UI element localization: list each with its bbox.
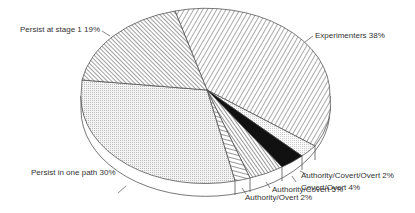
label-authority-overt: Authority/Overt 2%	[245, 193, 312, 202]
label-persist-stage1: Persist at stage 1 19%	[20, 25, 100, 34]
label-persist-one-path: Persist in one path 30%	[31, 168, 116, 177]
pie-top-face	[81, 8, 331, 183]
label-authority-covert-overt: Authority/Covert/Overt 2%	[301, 171, 394, 180]
label-experimenters: Experimenters 38%	[315, 31, 385, 40]
pie-chart: Persist at stage 1 19% Experimenters 38%…	[0, 0, 415, 213]
